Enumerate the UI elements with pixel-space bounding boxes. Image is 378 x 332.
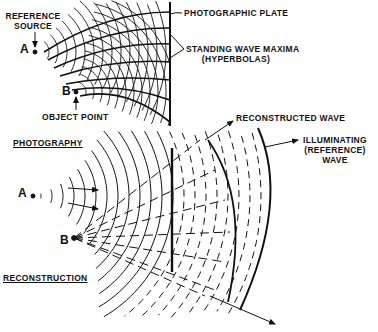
illuminating-arc <box>203 131 239 312</box>
illuminating-arc <box>217 136 250 311</box>
illuminating-arc <box>189 135 228 313</box>
illuminating-wave-arrow <box>265 140 298 147</box>
reconstructed-ray <box>74 238 215 290</box>
illuminating-wave-label: ILLUMINATING (REFERENCE) WAVE <box>300 135 370 165</box>
reconstruction-point-b <box>72 236 77 241</box>
plate-leader <box>170 13 182 14</box>
photography-section-label: PHOTOGRAPHY <box>13 138 83 148</box>
illuminating-arc <box>69 177 75 216</box>
maxima-label-line2: (HYPERBOLAS) <box>186 54 286 64</box>
illuminating-arc <box>104 131 173 316</box>
reconstructed-ray <box>74 140 200 238</box>
reconstruction-section-label: RECONSTRUCTION <box>3 273 87 283</box>
object-point-label: OBJECT POINT <box>42 112 108 122</box>
point-a-label: A <box>20 44 29 54</box>
reconstruction-point-b-label: B <box>60 235 69 245</box>
reconstructed-wave-label: RECONSTRUCTED WAVE <box>236 113 345 123</box>
maxima-label-line1: STANDING WAVE MAXIMA <box>186 44 286 54</box>
illuminating-wavefronts <box>41 131 261 317</box>
reference-source-label-line1: REFERENCE <box>3 11 63 21</box>
reconstruction-point-a <box>31 194 35 198</box>
holography-diagram: REFERENCE SOURCE A B OBJECT POINT PHOTOG… <box>0 0 378 332</box>
illuminating-arc <box>226 133 261 317</box>
illuminating-arrow-1 <box>68 188 98 190</box>
hyperbola-curve <box>72 88 170 100</box>
illuminating-arc <box>51 189 52 202</box>
illuminating-wavefront <box>240 128 270 310</box>
reference-source-label: REFERENCE SOURCE <box>3 11 63 31</box>
hyperbola-curve <box>60 61 170 76</box>
illuminating-arc <box>60 184 63 208</box>
reconstruction-panel <box>31 121 298 324</box>
reference-source-label-line2: SOURCE <box>3 21 63 31</box>
maxima-bracket <box>170 34 184 58</box>
illuminating-label-line3: WAVE <box>300 155 370 165</box>
reference-source-point-a <box>33 50 37 54</box>
illuminating-label-line1: ILLUMINATING <box>300 135 370 145</box>
reconstruction-point-a-label: A <box>18 188 27 198</box>
standing-wave-maxima-label: STANDING WAVE MAXIMA (HYPERBOLAS) <box>186 44 286 64</box>
illuminating-arc <box>158 135 206 315</box>
object-point-b <box>74 90 78 94</box>
photographic-plate-label: PHOTOGRAPHIC PLATE <box>184 8 288 18</box>
reconstructed-rays <box>74 140 230 296</box>
reconstructed-ray <box>74 238 225 262</box>
outer-ray-arrow <box>210 296 275 324</box>
illuminating-label-line2: (REFERENCE) <box>300 145 370 155</box>
illuminating-arc <box>77 169 86 224</box>
point-b-label: B <box>62 86 71 96</box>
